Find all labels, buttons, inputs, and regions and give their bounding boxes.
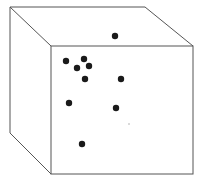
data-point bbox=[63, 58, 69, 64]
data-point bbox=[118, 76, 124, 82]
cube-front-face bbox=[51, 46, 193, 174]
cube-top-left-depth-edge bbox=[10, 7, 51, 46]
speck-mark bbox=[128, 123, 129, 124]
data-point bbox=[79, 141, 85, 147]
data-point bbox=[74, 65, 80, 71]
data-point bbox=[66, 100, 72, 106]
data-point bbox=[113, 105, 119, 111]
cube-diagram bbox=[0, 0, 204, 187]
cube-edges bbox=[10, 7, 193, 174]
data-point bbox=[81, 56, 87, 62]
point-set bbox=[63, 33, 130, 147]
cube-bottom-left-depth-edge bbox=[10, 133, 51, 174]
data-point bbox=[112, 33, 118, 39]
cube-top-right-depth-edge bbox=[145, 7, 193, 46]
data-point bbox=[86, 63, 92, 69]
cube-diagram-canvas bbox=[0, 0, 204, 187]
data-point bbox=[82, 76, 88, 82]
